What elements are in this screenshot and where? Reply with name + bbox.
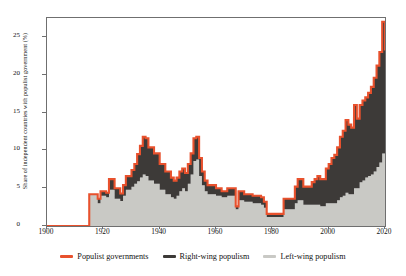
legend-swatch-icon: [163, 255, 176, 258]
area-chart-svg: [47, 18, 385, 226]
legend-label: Right-wing populism: [180, 252, 250, 261]
legend-item[interactable]: Left-wing populism: [263, 252, 345, 261]
y-tick-label: 0: [0, 220, 20, 228]
legend-item[interactable]: Populist governments: [60, 252, 148, 261]
legend-label: Left-wing populism: [280, 252, 345, 261]
legend-label: Populist governments: [77, 252, 148, 261]
chart-legend: Populist governmentsRight-wing populismL…: [0, 252, 406, 261]
legend-swatch-icon: [263, 255, 276, 258]
y-tick-label: 15: [0, 107, 20, 115]
y-tick-label: 10: [0, 144, 20, 152]
y-tick-label: 20: [0, 69, 20, 77]
legend-swatch-icon: [60, 255, 73, 258]
y-axis-title: Share of independent countries with popu…: [22, 11, 28, 211]
populism-chart-figure: Share of independent countries with popu…: [0, 0, 406, 276]
plot-area: [46, 17, 386, 227]
y-tick-label: 5: [0, 182, 20, 190]
y-tick-label: 25: [0, 31, 20, 39]
legend-item[interactable]: Right-wing populism: [163, 252, 250, 261]
